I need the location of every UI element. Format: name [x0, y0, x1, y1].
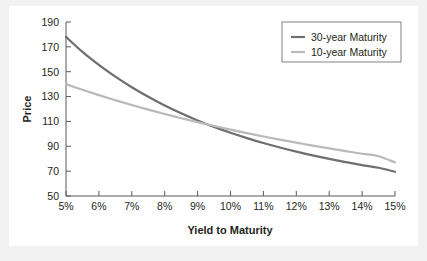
y-tick-label: 110: [42, 115, 59, 127]
y-tick-label: 130: [41, 90, 59, 102]
x-axis-title: Yield to Maturity: [187, 224, 273, 236]
chart-svg: 507090110130150170190 5%6%7%8%9%10%11%12…: [9, 6, 418, 246]
x-tick-label: 8%: [157, 200, 172, 212]
x-tick-label: 6%: [91, 200, 106, 212]
y-tick-label: 90: [47, 140, 59, 152]
x-tick-label: 11%: [253, 200, 273, 212]
price-yield-chart: 507090110130150170190 5%6%7%8%9%10%11%12…: [9, 6, 418, 246]
y-tick-label: 150: [41, 66, 59, 78]
y-tick-label: 190: [41, 16, 59, 28]
x-tick-label: 5%: [58, 200, 73, 212]
x-tick-label: 9%: [190, 200, 205, 212]
chart-figure: 507090110130150170190 5%6%7%8%9%10%11%12…: [9, 6, 418, 246]
x-tick-label: 7%: [124, 200, 139, 212]
x-tick-label: 15%: [384, 200, 405, 212]
x-axis-tick-labels: 5%6%7%8%9%10%11%12%13%14%15%: [58, 200, 405, 212]
x-tick-label: 13%: [319, 200, 340, 212]
x-axis-ticks: [66, 191, 395, 196]
y-tick-label: 170: [41, 41, 59, 53]
y-axis-title: Price: [21, 96, 33, 123]
legend-label: 30-year Maturity: [311, 31, 388, 43]
x-tick-label: 10%: [220, 200, 241, 212]
x-tick-label: 12%: [286, 200, 307, 212]
legend-label: 10-year Maturity: [311, 46, 388, 58]
y-tick-label: 70: [47, 165, 59, 177]
y-axis-ticks: [66, 22, 71, 196]
chart-legend: 30-year Maturity10-year Maturity: [282, 22, 401, 62]
y-tick-label: 50: [47, 190, 59, 202]
y-axis-tick-labels: 507090110130150170190: [41, 16, 59, 202]
series-line: [66, 84, 395, 162]
x-tick-label: 14%: [352, 200, 373, 212]
